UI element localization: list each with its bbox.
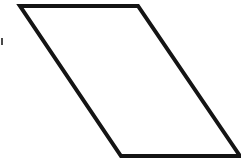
left-edge-speck-icon [1, 38, 3, 45]
parallelogram-diagram [0, 0, 241, 160]
parallelogram-shape [20, 6, 240, 156]
figure-canvas: Outline drawing of a slanted parallelogr… [0, 0, 241, 160]
